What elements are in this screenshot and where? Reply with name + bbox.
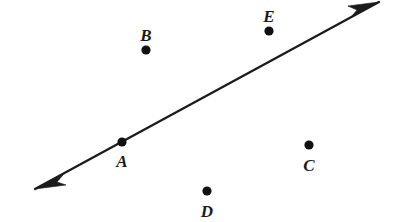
point-label-D: D xyxy=(200,202,213,221)
point-dot-B xyxy=(141,45,150,54)
arrowhead-lower-left-icon xyxy=(35,175,66,189)
point-label-E: E xyxy=(262,7,274,26)
point-dot-C xyxy=(304,140,313,149)
line-through-A xyxy=(35,2,379,189)
point-dot-D xyxy=(202,186,211,195)
point-dot-E xyxy=(264,26,273,35)
point-label-B: B xyxy=(139,26,151,45)
point-label-A: A xyxy=(115,152,127,171)
point-label-C: C xyxy=(303,156,315,175)
point-dot-A xyxy=(117,137,126,146)
geometry-canvas: A B C D E xyxy=(0,0,400,222)
arrowhead-upper-right-icon xyxy=(348,2,379,17)
geometry-diagram: A B C D E xyxy=(0,0,400,222)
